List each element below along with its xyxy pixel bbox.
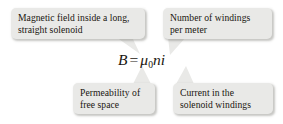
callout-current: Current in the solenoid windings bbox=[173, 83, 273, 114]
equation-symbol-mu: μ bbox=[140, 51, 148, 68]
equation: B=μ0ni bbox=[0, 51, 283, 70]
callout-permeability-line-1: Permeability of bbox=[80, 87, 149, 99]
callout-magnetic-field: Magnetic field inside a long, straight s… bbox=[11, 8, 145, 39]
equation-symbol-i: i bbox=[161, 51, 165, 68]
equation-symbol-n: n bbox=[153, 51, 161, 68]
callout-windings-per-meter: Number of windings per meter bbox=[163, 8, 272, 39]
callout-windings-per-meter-line-2: per meter bbox=[170, 24, 266, 36]
callout-magnetic-field-line-2: straight solenoid bbox=[18, 24, 139, 36]
callout-current-line-1: Current in the bbox=[180, 87, 267, 99]
callout-windings-per-meter-line-1: Number of windings bbox=[170, 12, 266, 24]
callout-permeability: Permeability of free space bbox=[73, 83, 155, 114]
callout-permeability-line-2: free space bbox=[80, 99, 149, 111]
annotated-equation-figure: Magnetic field inside a long, straight s… bbox=[0, 0, 283, 124]
callout-magnetic-field-line-1: Magnetic field inside a long, bbox=[18, 12, 139, 24]
callout-current-line-2: solenoid windings bbox=[180, 99, 267, 111]
equation-equals: = bbox=[127, 51, 140, 68]
